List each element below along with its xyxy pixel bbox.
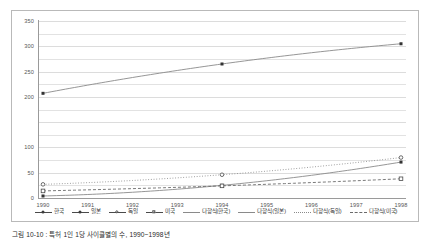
- figure-caption: 그림 10-10 : 특허 1인 1당 사이클별의 수, 1990~1998년: [12, 229, 170, 239]
- plot-canvas: 050100200250300350 199019911992199319941…: [38, 20, 406, 199]
- legend-label: 다항식(일본): [257, 209, 286, 215]
- legend-item[interactable]: 한국: [35, 209, 64, 216]
- data-point: [221, 62, 224, 65]
- legend-item[interactable]: 일본: [72, 209, 101, 216]
- chart-legend: 한국일본독일미국다항식(한국)다항식(일본)다항식(독일)다항식(미국): [24, 206, 408, 218]
- legend-item[interactable]: 다항식(일본): [238, 209, 286, 216]
- series-line-독일: [43, 158, 401, 185]
- legend-label: 다항식(한국): [202, 209, 231, 215]
- series-line-한국: [43, 162, 401, 196]
- data-point: [400, 161, 403, 164]
- legend-label: 미국: [165, 209, 175, 215]
- data-point: [41, 189, 45, 193]
- legend-item[interactable]: 다항식(미국): [350, 209, 398, 216]
- data-point: [220, 173, 224, 177]
- y-tick-label: 100: [24, 144, 34, 150]
- legend-label: 다항식(미국): [369, 209, 398, 215]
- data-point: [42, 194, 45, 197]
- series-line-일본: [43, 44, 401, 94]
- chart-figure: 050100200250300350 199019911992199319941…: [0, 0, 431, 242]
- legend-swatch-icon: [109, 209, 126, 216]
- legend-swatch-icon: [350, 209, 367, 216]
- legend-label: 한국: [54, 209, 64, 215]
- legend-swatch-icon: [146, 209, 163, 216]
- legend-item[interactable]: 다항식(한국): [183, 209, 231, 216]
- legend-item[interactable]: 독일: [109, 209, 138, 216]
- legend-label: 독일: [128, 209, 138, 215]
- chart-frame: 050100200250300350 199019911992199319941…: [11, 10, 419, 222]
- data-point: [399, 156, 403, 160]
- data-point: [399, 177, 403, 181]
- legend-marker-icon: [115, 210, 118, 213]
- y-tick-label: 200: [24, 94, 34, 100]
- legend-swatch-icon: [35, 209, 52, 216]
- y-tick-label: 0: [31, 195, 34, 201]
- legend-label: 다항식(독일): [313, 209, 342, 215]
- legend-marker-icon: [152, 210, 155, 213]
- legend-item[interactable]: 미국: [146, 209, 175, 216]
- legend-label: 일본: [91, 209, 101, 215]
- legend-item[interactable]: 다항식(독일): [294, 209, 342, 216]
- data-point: [220, 184, 224, 188]
- legend-marker-icon: [79, 211, 82, 214]
- y-tick-label: 250: [24, 69, 34, 75]
- data-point: [42, 92, 45, 95]
- plot-area: 050100200250300350 199019911992199319941…: [38, 20, 406, 199]
- data-point: [400, 42, 403, 45]
- y-tick-label: 50: [28, 170, 34, 176]
- data-point: [41, 183, 45, 187]
- legend-swatch-icon: [238, 209, 255, 216]
- legend-marker-icon: [42, 211, 45, 214]
- series-layer: [38, 20, 406, 199]
- y-tick-label: 300: [24, 43, 34, 49]
- legend-swatch-icon: [72, 209, 89, 216]
- legend-swatch-icon: [183, 209, 200, 216]
- y-tick-label: 350: [24, 18, 34, 24]
- legend-swatch-icon: [294, 209, 311, 216]
